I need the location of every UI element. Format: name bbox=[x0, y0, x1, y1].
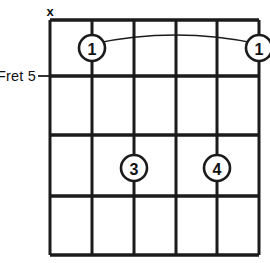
finger-marker-1a: 1 bbox=[79, 35, 105, 61]
finger-marker-1b: 1 bbox=[246, 35, 270, 61]
mute-marker-string-1: x bbox=[46, 4, 54, 19]
finger-marker-3: 3 bbox=[121, 155, 147, 181]
chord-diagram: x Fret 5 1 1 3 4 bbox=[0, 0, 270, 263]
finger-number: 3 bbox=[130, 161, 139, 178]
finger-marker-4: 4 bbox=[204, 155, 230, 181]
finger-number: 1 bbox=[255, 41, 264, 58]
fret-position-label: Fret 5 bbox=[0, 68, 36, 84]
finger-number: 1 bbox=[88, 41, 97, 58]
finger-number: 4 bbox=[213, 161, 222, 178]
chord-diagram-canvas: x Fret 5 1 1 3 4 bbox=[0, 0, 270, 263]
